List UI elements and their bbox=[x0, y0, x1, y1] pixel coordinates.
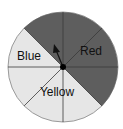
spinner-diagram: Blue Red Yellow bbox=[0, 0, 123, 129]
blue-label: Blue bbox=[17, 49, 41, 63]
red-label: Red bbox=[80, 44, 102, 58]
center-pin bbox=[60, 64, 66, 70]
yellow-label: Yellow bbox=[40, 85, 75, 99]
